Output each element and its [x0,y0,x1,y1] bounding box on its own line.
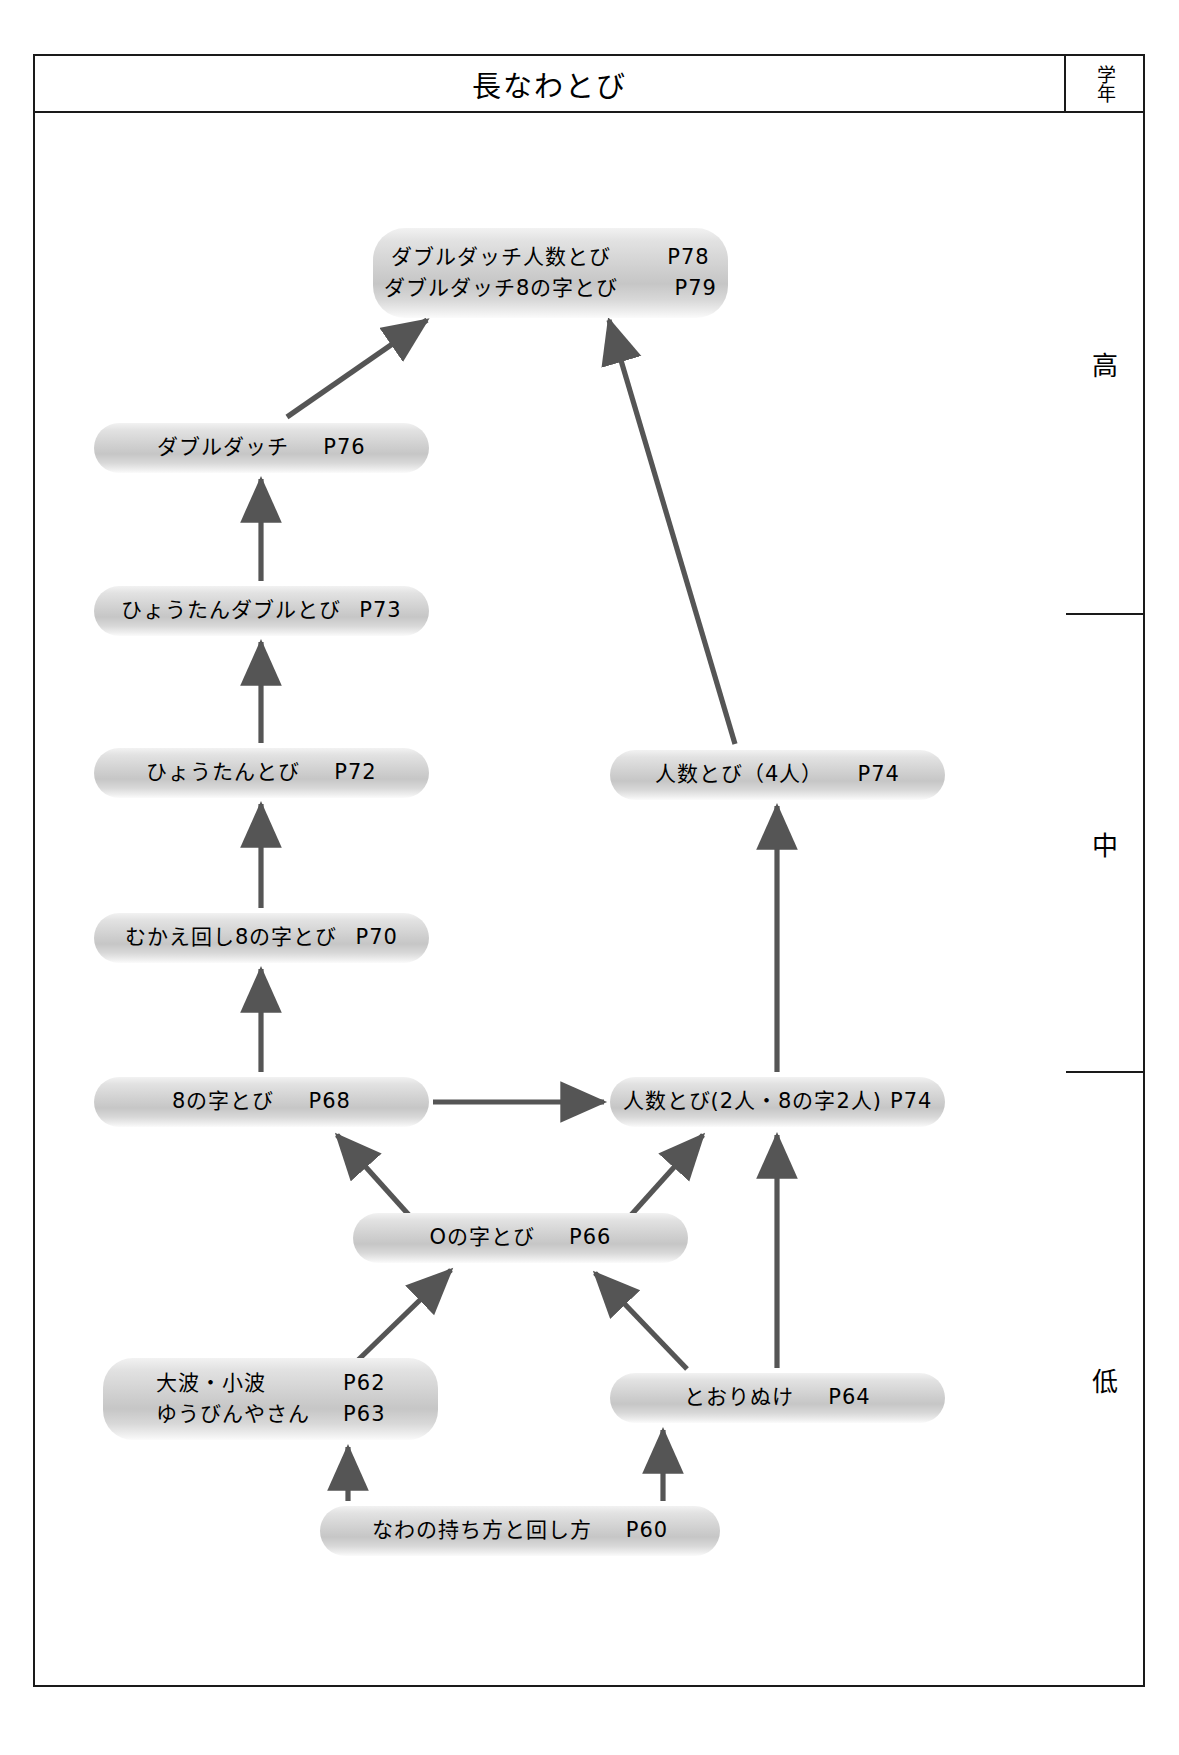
node-line: 人数とび（4人） P74 [655,759,900,791]
node-page: P63 [343,1399,385,1431]
edge-oonami-to-maru [355,1270,451,1363]
node-label: 人数とび（4人） [655,759,823,791]
node-page: P62 [343,1368,385,1400]
node-page: P73 [359,595,401,627]
node-line: ゆうびんやさん P63 [156,1399,386,1431]
node-label: Oの字とび [430,1222,536,1254]
node-line: とおりぬけ P64 [684,1382,870,1414]
node-page: P66 [569,1222,611,1254]
node-line: ダブルダッチ人数とび P78 [391,242,709,274]
node-line: ダブルダッチ P76 [157,432,365,464]
page-title: 長なわとび [472,63,627,105]
node-ninzu-2[interactable]: 人数とび(2人・8の字2人) P74 [610,1077,945,1127]
node-label: ダブルダッチ8の字とび [384,273,618,305]
node-page: P64 [828,1382,870,1414]
grade-band-low: 低 [1066,1073,1143,1685]
edge-double-to-dd-ninzu [287,320,427,417]
node-label: ひょうたんとび [146,757,300,789]
edge-toorinuke-to-maru [595,1273,687,1369]
node-double-dutch[interactable]: ダブルダッチ P76 [94,423,429,473]
node-page: P70 [355,922,397,954]
node-page: P72 [334,757,376,789]
node-mukae-mawashi[interactable]: むかえ回し8の字とび P70 [94,913,429,963]
node-maru-no-ji[interactable]: Oの字とび P66 [353,1213,688,1263]
node-page: P68 [308,1086,350,1118]
node-label: ダブルダッチ [157,432,289,464]
node-page: P76 [323,432,365,464]
edge-ninzu4-to-dd-ninzu [609,320,735,744]
node-page: P74 [857,759,899,791]
title-band: 長なわとび [35,56,1066,113]
node-label: ゆうびんやさん [156,1399,310,1431]
node-page: P79 [674,273,716,305]
node-label: とおりぬけ [684,1382,794,1414]
grade-band-high: 高 [1066,113,1143,615]
node-label: ダブルダッチ人数とび [391,242,611,274]
node-line: ひょうたんとび P72 [146,757,376,789]
node-label: 8の字とび [172,1086,274,1118]
node-line: ひょうたんダブルとび P73 [121,595,401,627]
node-line: ダブルダッチ8の字とび P79 [384,273,717,305]
node-label: むかえ回し8の字とび [125,922,337,954]
node-label: 人数とび(2人・8の字2人) [623,1086,882,1118]
node-line: なわの持ち方と回し方 P60 [372,1515,668,1547]
grade-band-high-label: 高 [1092,345,1118,382]
grade-band-mid-label: 中 [1092,825,1118,862]
node-hyoutan-double[interactable]: ひょうたんダブルとび P73 [94,586,429,636]
flowchart-canvas: ダブルダッチ人数とび P78 ダブルダッチ8の字とび P79 ダブルダッチ P7… [35,113,1066,1685]
node-line: むかえ回し8の字とび P70 [125,922,398,954]
node-line: Oの字とび P66 [430,1222,612,1254]
node-hyoutan[interactable]: ひょうたんとび P72 [94,748,429,798]
node-line: 8の字とび P68 [172,1086,351,1118]
node-toorinuke[interactable]: とおりぬけ P64 [610,1373,945,1423]
node-page: P78 [667,242,709,274]
grade-band-low-label: 低 [1092,1361,1118,1398]
node-nawa-mochikata[interactable]: なわの持ち方と回し方 P60 [320,1506,720,1556]
grade-band-mid: 中 [1066,615,1143,1073]
node-page: P60 [626,1515,668,1547]
grade-column-header-label: 学年 [1095,65,1115,103]
flowchart-edges [35,113,1066,1685]
node-page: P74 [890,1086,932,1118]
grade-column-header: 学年 [1066,56,1143,113]
node-line: 人数とび(2人・8の字2人) P74 [623,1086,933,1118]
node-oonami-konami[interactable]: 大波・小波 P62 ゆうびんやさん P63 [103,1358,438,1440]
node-label: ひょうたんダブルとび [121,595,341,627]
node-double-dutch-ninzu[interactable]: ダブルダッチ人数とび P78 ダブルダッチ8の字とび P79 [373,228,728,318]
node-label: なわの持ち方と回し方 [372,1515,592,1547]
node-ninzu-4[interactable]: 人数とび（4人） P74 [610,750,945,800]
node-line: 大波・小波 P62 [156,1368,386,1400]
node-label: 大波・小波 [156,1368,266,1400]
diagram-frame: 長なわとび 学年 高 中 低 [33,54,1145,1687]
node-hachi-no-ji[interactable]: 8の字とび P68 [94,1077,429,1127]
